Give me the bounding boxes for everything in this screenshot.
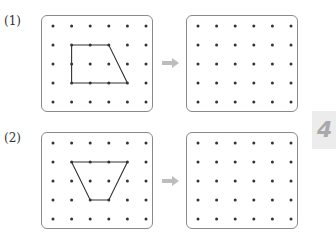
- grid-dot: [126, 25, 129, 28]
- grid-dot: [145, 142, 148, 145]
- grid-dot: [89, 161, 92, 164]
- grid-dot: [89, 101, 92, 104]
- grid-dot: [234, 44, 237, 47]
- grid-dot: [126, 101, 129, 104]
- grid-dot: [234, 101, 237, 104]
- grid-dot: [215, 82, 218, 85]
- grid-dot: [271, 218, 274, 221]
- grid-dot: [52, 101, 55, 104]
- grid-dot: [234, 161, 237, 164]
- problem-2-target-geoboard[interactable]: [187, 133, 299, 230]
- grid-dot: [271, 25, 274, 28]
- grid-dot: [252, 161, 255, 164]
- grid-dot: [197, 180, 200, 183]
- shape-outline: [72, 162, 128, 200]
- grid-dot: [197, 25, 200, 28]
- grid-dot: [215, 161, 218, 164]
- grid-dot: [126, 218, 129, 221]
- grid-dot: [271, 44, 274, 47]
- grid-dot: [107, 142, 110, 145]
- grid-dot: [89, 44, 92, 47]
- grid-dot: [52, 218, 55, 221]
- problem-2-label: (2): [4, 131, 21, 145]
- grid-dot: [252, 218, 255, 221]
- grid-dot: [107, 218, 110, 221]
- chapter-tab: 4: [312, 111, 336, 149]
- grid-dot: [89, 25, 92, 28]
- grid-dot: [271, 142, 274, 145]
- grid-dot: [107, 44, 110, 47]
- grid-dot: [234, 25, 237, 28]
- grid-dot: [234, 142, 237, 145]
- problem-1-source-board: [41, 15, 153, 112]
- grid-dot: [290, 63, 293, 66]
- grid-dot: [271, 180, 274, 183]
- grid-dot: [215, 199, 218, 202]
- grid-dot: [107, 63, 110, 66]
- grid-dot: [290, 199, 293, 202]
- grid-dot: [52, 180, 55, 183]
- grid-dot: [215, 44, 218, 47]
- grid-dot: [290, 142, 293, 145]
- grid-dot: [145, 63, 148, 66]
- grid-dot: [290, 180, 293, 183]
- grid-dot: [252, 25, 255, 28]
- grid-dot: [107, 199, 110, 202]
- grid-dot: [197, 44, 200, 47]
- grid-dot: [126, 161, 129, 164]
- grid-dot: [271, 82, 274, 85]
- grid-dot: [145, 44, 148, 47]
- grid-dot: [290, 161, 293, 164]
- chapter-number: 4: [317, 117, 332, 142]
- grid-dot: [107, 180, 110, 183]
- problem-1-target-geoboard[interactable]: [187, 16, 299, 113]
- grid-dot: [52, 63, 55, 66]
- problem-2-geoboard: [42, 133, 154, 230]
- grid-dot: [197, 101, 200, 104]
- grid-dot: [215, 180, 218, 183]
- grid-dot: [145, 82, 148, 85]
- grid-dot: [290, 44, 293, 47]
- grid-dot: [89, 63, 92, 66]
- grid-dot: [89, 142, 92, 145]
- grid-dot: [290, 218, 293, 221]
- grid-dot: [107, 161, 110, 164]
- grid-dot: [290, 25, 293, 28]
- grid-dot: [290, 101, 293, 104]
- grid-dot: [145, 180, 148, 183]
- grid-dot: [70, 63, 73, 66]
- grid-dot: [197, 63, 200, 66]
- grid-dot: [290, 82, 293, 85]
- grid-dot: [145, 25, 148, 28]
- grid-dot: [252, 199, 255, 202]
- problem-1-target-board[interactable]: [186, 15, 298, 112]
- grid-dot: [107, 101, 110, 104]
- grid-dot: [70, 218, 73, 221]
- grid-dot: [126, 142, 129, 145]
- grid-dot: [234, 63, 237, 66]
- grid-dot: [234, 82, 237, 85]
- grid-dot: [89, 82, 92, 85]
- problem-2-source-board: [41, 132, 153, 229]
- grid-dot: [252, 63, 255, 66]
- grid-dot: [126, 44, 129, 47]
- grid-dot: [52, 161, 55, 164]
- grid-dot: [234, 180, 237, 183]
- grid-dot: [197, 199, 200, 202]
- grid-dot: [252, 101, 255, 104]
- grid-dot: [252, 44, 255, 47]
- problem-1-label: (1): [4, 14, 21, 28]
- grid-dot: [70, 180, 73, 183]
- grid-dot: [215, 218, 218, 221]
- grid-dot: [126, 63, 129, 66]
- grid-dot: [126, 199, 129, 202]
- grid-dot: [197, 161, 200, 164]
- grid-dot: [89, 218, 92, 221]
- grid-dot: [70, 82, 73, 85]
- grid-dot: [126, 82, 129, 85]
- grid-dot: [252, 180, 255, 183]
- shape-outline: [72, 45, 128, 83]
- grid-dot: [234, 218, 237, 221]
- grid-dot: [70, 44, 73, 47]
- problem-2-target-board[interactable]: [186, 132, 298, 229]
